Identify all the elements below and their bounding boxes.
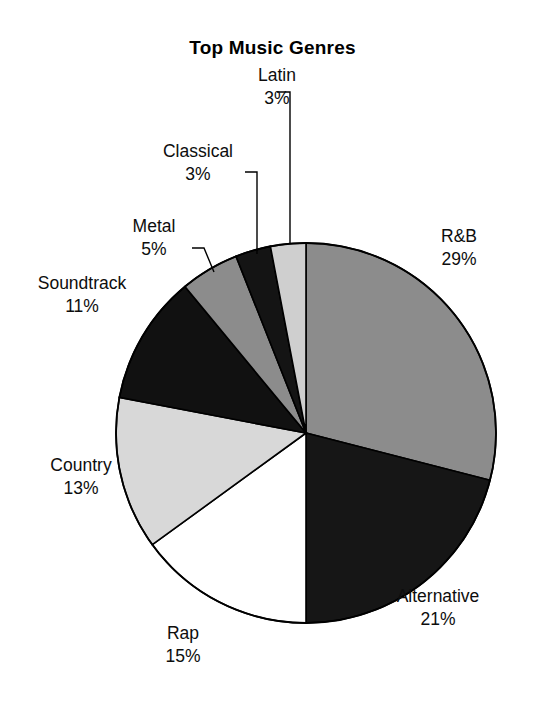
pie-label-metal: Metal 5%	[113, 215, 195, 262]
pie-label-rnb-name: R&B	[418, 225, 500, 248]
pie-label-country-value: 13%	[32, 477, 130, 500]
pie-label-soundtrack-value: 11%	[22, 295, 142, 318]
pie-label-metal-name: Metal	[113, 215, 195, 238]
pie-label-alternative: Alternative 21%	[375, 585, 501, 632]
pie-label-classical-value: 3%	[143, 163, 253, 186]
pie-label-alternative-name: Alternative	[375, 585, 501, 608]
pie-chart-figure: Top Music Genres Latin 3% Classical 3% M…	[0, 0, 555, 714]
pie-label-alternative-value: 21%	[375, 608, 501, 631]
pie-slice-group	[116, 243, 496, 623]
leader-line-latin	[277, 92, 290, 243]
pie-label-rap-name: Rap	[147, 622, 219, 645]
pie-label-country-name: Country	[32, 454, 130, 477]
pie-label-classical-name: Classical	[143, 140, 253, 163]
pie-label-classical: Classical 3%	[143, 140, 253, 187]
pie-label-latin-value: 3%	[227, 87, 327, 110]
pie-label-rap: Rap 15%	[147, 622, 219, 669]
pie-label-metal-value: 5%	[113, 238, 195, 261]
pie-label-soundtrack: Soundtrack 11%	[22, 272, 142, 319]
pie-label-country: Country 13%	[32, 454, 130, 501]
pie-label-rap-value: 15%	[147, 645, 219, 668]
pie-label-latin: Latin 3%	[227, 64, 327, 111]
pie-label-soundtrack-name: Soundtrack	[22, 272, 142, 295]
pie-label-rnb: R&B 29%	[418, 225, 500, 272]
pie-label-latin-name: Latin	[227, 64, 327, 87]
pie-label-rnb-value: 29%	[418, 248, 500, 271]
